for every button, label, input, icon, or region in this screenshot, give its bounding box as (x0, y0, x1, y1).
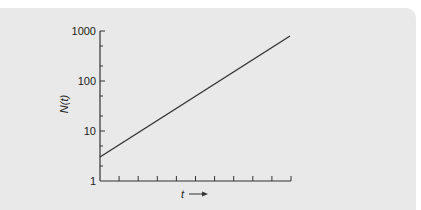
y-ticks (100, 31, 105, 166)
x-ticks (119, 176, 291, 181)
y-tick-label-1000: 1000 (72, 25, 96, 37)
y-tick-label-1: 1 (90, 175, 96, 187)
y-tick-label-10: 10 (84, 125, 96, 137)
series-line-n-t (100, 36, 290, 157)
y-tick-label-100: 100 (78, 75, 96, 87)
chart: 1000 100 10 1 N(t) t (0, 0, 421, 210)
x-axis-arrow-icon (189, 192, 208, 197)
x-axis-label: t (181, 188, 185, 200)
y-axis-label: N(t) (58, 95, 70, 114)
